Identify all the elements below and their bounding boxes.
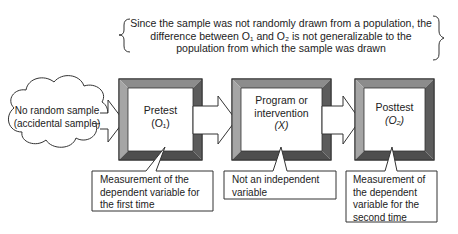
program-title-1: Program or — [241, 94, 322, 107]
callout-2-line-1: Not an independent — [232, 174, 336, 187]
left-brace — [119, 19, 130, 52]
callout-1-text: Measurement of the dependent variable fo… — [100, 174, 212, 212]
program-label: Program or intervention (X) — [241, 94, 322, 132]
top-note-line-3: population from which the sample was dra… — [130, 42, 432, 55]
callout-3-line-3: variable for the — [353, 199, 437, 212]
callout-3-text: Measurement of the dependent variable fo… — [353, 174, 437, 224]
program-title-2: intervention — [241, 107, 322, 120]
cloud-line-2: (accidental sample) — [10, 118, 104, 131]
top-note: Since the sample was not randomly drawn … — [130, 17, 432, 55]
pretest-label: Pretest (O₁) — [128, 104, 193, 129]
program-symbol: (X) — [241, 119, 322, 132]
callout-3-line-2: the dependent — [353, 187, 437, 200]
right-brace — [433, 16, 444, 60]
pretest-symbol: (O₁) — [128, 117, 193, 130]
posttest-title: Posttest — [364, 101, 425, 114]
callout-1-line-2: dependent variable for — [100, 187, 212, 200]
top-note-line-1: Since the sample was not randomly drawn … — [130, 17, 432, 30]
callout-2-line-2: variable — [232, 187, 336, 200]
callout-3-line-1: Measurement of — [353, 174, 437, 187]
cloud-line-1: No random sample — [10, 105, 104, 118]
cloud-label: No random sample (accidental sample) — [10, 105, 104, 130]
posttest-symbol: (O₂) — [364, 114, 425, 127]
callout-2-text: Not an independent variable — [232, 174, 336, 199]
posttest-label: Posttest (O₂) — [364, 101, 425, 126]
callout-1-line-3: the first time — [100, 199, 212, 212]
top-note-line-2: difference between O₁ and O₂ is not gene… — [130, 30, 432, 43]
pretest-title: Pretest — [128, 104, 193, 117]
callout-3-line-4: second time — [353, 212, 437, 225]
callout-1-line-1: Measurement of the — [100, 174, 212, 187]
